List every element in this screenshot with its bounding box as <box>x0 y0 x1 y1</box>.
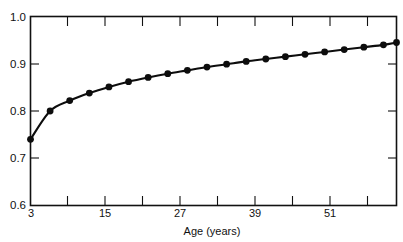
data-point <box>393 39 400 46</box>
data-point <box>164 70 171 77</box>
y-tick-label-1.0: 1.0 <box>10 11 26 23</box>
data-point <box>47 108 54 115</box>
data-point <box>106 84 113 91</box>
data-point <box>86 90 93 97</box>
data-point <box>380 41 387 48</box>
x-axis-title: Age (years) <box>184 225 241 237</box>
x-tick-label-3: 3 <box>28 207 34 219</box>
data-point <box>282 53 289 60</box>
x-tick-label-39: 39 <box>249 207 261 219</box>
data-point <box>262 56 269 63</box>
data-point <box>27 136 34 143</box>
data-point <box>145 74 152 81</box>
y-tick-label-0.7: 0.7 <box>10 152 26 164</box>
y-tick-label-0.6: 0.6 <box>10 199 26 211</box>
data-point <box>243 58 250 65</box>
data-point <box>66 97 73 104</box>
reliability-by-age-chart: 1.0 0.9 0.8 0.7 0.6 3 15 27 39 51 Age (y… <box>0 0 403 242</box>
data-point <box>184 67 191 74</box>
x-tick-label-27: 27 <box>174 207 186 219</box>
data-point <box>360 44 367 51</box>
data-point <box>302 51 309 58</box>
y-tick-label-0.8: 0.8 <box>10 105 26 117</box>
data-point <box>341 46 348 53</box>
figure-root: increase in reliability by age <box>0 0 403 242</box>
x-tick-label-51: 51 <box>324 207 336 219</box>
data-point <box>321 49 328 56</box>
data-point <box>223 61 230 68</box>
x-tick-label-15: 15 <box>99 207 111 219</box>
data-point <box>125 78 132 85</box>
data-point <box>204 64 211 71</box>
y-tick-label-0.9: 0.9 <box>10 58 26 70</box>
